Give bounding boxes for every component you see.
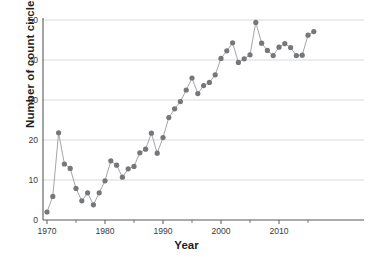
data-point bbox=[44, 209, 49, 214]
data-point bbox=[131, 164, 136, 169]
x-tick-label: 2010 bbox=[269, 226, 288, 236]
data-point bbox=[160, 135, 165, 140]
data-point bbox=[50, 194, 55, 199]
data-points bbox=[44, 20, 316, 215]
y-axis-title: Number of count circles bbox=[24, 0, 36, 151]
line-chart-canvas: 0102030405019701980199020002010 bbox=[0, 0, 373, 260]
data-point bbox=[184, 87, 189, 92]
data-point bbox=[97, 190, 102, 195]
data-point bbox=[137, 150, 142, 155]
data-point bbox=[294, 53, 299, 58]
data-point bbox=[143, 147, 148, 152]
data-point bbox=[68, 166, 73, 171]
data-point bbox=[155, 151, 160, 156]
data-point bbox=[79, 198, 84, 203]
data-point bbox=[166, 115, 171, 120]
data-point bbox=[242, 56, 247, 61]
data-point bbox=[195, 91, 200, 96]
x-axis-title: Year bbox=[0, 239, 373, 251]
data-point bbox=[91, 202, 96, 207]
x-tick-label: 2000 bbox=[211, 226, 230, 236]
x-tick-label: 1970 bbox=[37, 226, 56, 236]
data-point bbox=[218, 56, 223, 61]
data-point bbox=[311, 29, 316, 34]
data-point bbox=[178, 99, 183, 104]
data-point bbox=[172, 106, 177, 111]
data-point bbox=[224, 48, 229, 53]
data-point bbox=[265, 48, 270, 53]
data-point bbox=[247, 52, 252, 57]
data-point bbox=[120, 175, 125, 180]
data-point bbox=[108, 158, 113, 163]
data-point bbox=[282, 41, 287, 46]
y-tick-label: 10 bbox=[28, 175, 38, 185]
data-point bbox=[253, 20, 258, 25]
x-tick-label: 1990 bbox=[153, 226, 172, 236]
data-point bbox=[126, 166, 131, 171]
gridlines bbox=[43, 20, 364, 180]
data-point bbox=[288, 45, 293, 50]
data-point bbox=[276, 45, 281, 50]
data-point bbox=[114, 163, 119, 168]
y-tick-label: 0 bbox=[33, 215, 38, 225]
data-point bbox=[271, 53, 276, 58]
data-point bbox=[230, 40, 235, 45]
data-point bbox=[259, 41, 264, 46]
data-point bbox=[189, 75, 194, 80]
data-point bbox=[236, 60, 241, 65]
chart-figure: 0102030405019701980199020002010 Number o… bbox=[0, 0, 373, 260]
data-point bbox=[62, 161, 67, 166]
data-point bbox=[73, 186, 78, 191]
data-point bbox=[305, 33, 310, 38]
data-point bbox=[85, 190, 90, 195]
data-point bbox=[102, 178, 107, 183]
data-point bbox=[149, 131, 154, 136]
data-point bbox=[300, 53, 305, 58]
data-point bbox=[201, 83, 206, 88]
data-point bbox=[213, 72, 218, 77]
data-point bbox=[56, 130, 61, 135]
x-tick-label: 1980 bbox=[95, 226, 114, 236]
data-line bbox=[47, 22, 314, 212]
data-point bbox=[207, 80, 212, 85]
